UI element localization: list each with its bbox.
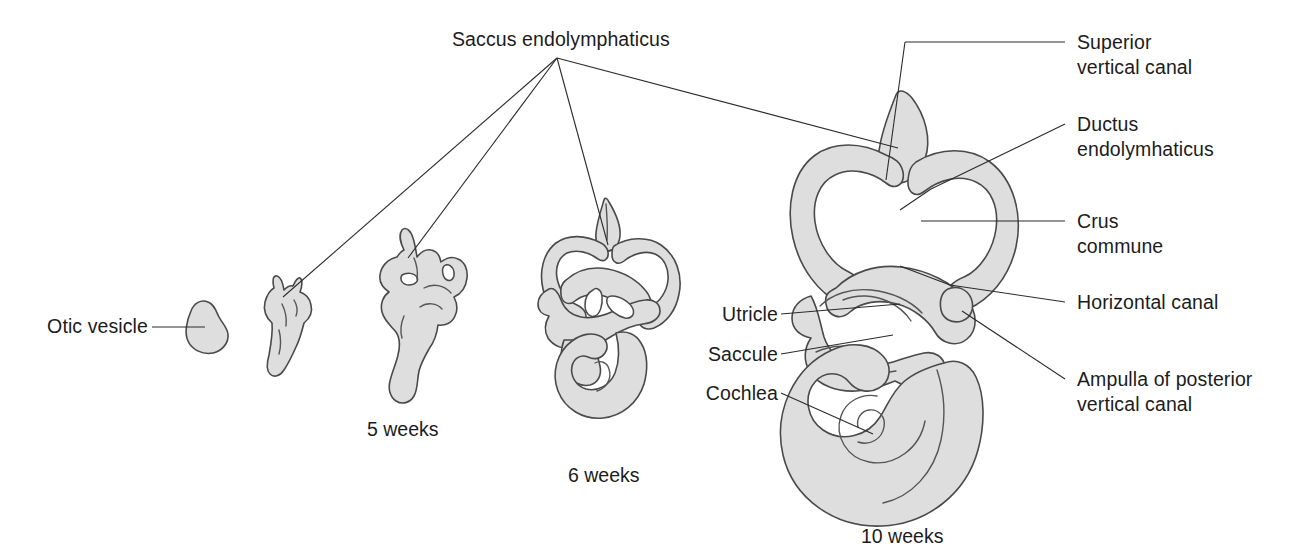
early-labyrinth-shape — [264, 276, 311, 376]
labyrinth-5w-hole-left — [401, 273, 418, 285]
leader-saccus-to-10w — [557, 58, 898, 148]
caption-6-weeks: 6 weeks — [568, 464, 640, 487]
label-superior-vertical-canal: Superior vertical canal — [1077, 30, 1192, 80]
stage-early-labyrinth — [264, 276, 311, 376]
stage-labyrinth-5-weeks — [380, 229, 467, 403]
labyrinth-10w-ampulla-posterior — [940, 287, 972, 321]
leader-saccus-to-6w — [557, 58, 608, 245]
label-saccule: Saccule — [600, 342, 778, 367]
label-crus-commune: Crus commune — [1077, 209, 1163, 259]
label-ampulla-of-posterior-vertical-canal: Ampulla of posterior vertical canal — [1077, 367, 1252, 417]
caption-5-weeks: 5 weeks — [367, 418, 439, 441]
leader-saccus-to-5w — [408, 58, 557, 258]
caption-10-weeks: 10 weeks — [861, 525, 943, 548]
leader-ampulla-posterior — [962, 311, 1065, 379]
labyrinth-5w-shape — [380, 229, 467, 403]
anatomical-diagram — [0, 0, 1289, 560]
label-cochlea: Cochlea — [600, 381, 778, 406]
label-saccus-endolymphaticus: Saccus endolymphaticus — [452, 27, 670, 52]
label-otic-vesicle: Otic vesicle — [0, 314, 148, 339]
stage-labyrinth-10-weeks — [781, 91, 1019, 526]
figure-canvas: Saccus endolymphaticus Otic vesicle Utri… — [0, 0, 1289, 560]
labyrinth-10w-cochlea — [781, 345, 984, 526]
labyrinth-5w-hole-right — [443, 265, 455, 281]
label-utricle: Utricle — [600, 302, 778, 327]
label-horizontal-canal: Horizontal canal — [1077, 290, 1218, 315]
label-ductus-endolymhaticus: Ductus endolymhaticus — [1077, 112, 1214, 162]
